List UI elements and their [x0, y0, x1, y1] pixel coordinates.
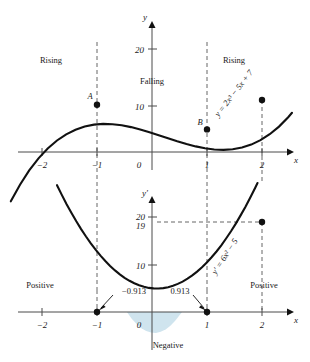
top-x-tick-label-0: 0 — [137, 160, 142, 170]
bottom-y-axis-arrowhead — [149, 196, 156, 203]
top-x-tick-label--1: −1 — [92, 160, 103, 170]
bottom-plot-group: −2 −1 0 1 2 20 19 10 y′ x — [18, 182, 298, 350]
top-x-tick-label-2: 2 — [260, 160, 265, 170]
bottom-dashed-verticals — [97, 222, 262, 312]
top-y-axis-arrowhead — [149, 21, 156, 28]
bottom-x-tick-label--1: −1 — [92, 320, 103, 330]
bottom-y-axis-label: y′ — [141, 188, 149, 198]
bottom-x-tick-label-1: 1 — [205, 320, 210, 330]
root-right-annotation-label: 0.913 — [170, 286, 189, 296]
bottom-x-tick-label--2: −2 — [37, 320, 48, 330]
top-region-label-falling: Falling — [140, 76, 165, 86]
top-plot-group: −2 −1 0 1 2 20 10 y x A B Rising — [11, 12, 298, 201]
negative-region-shading — [127, 312, 182, 333]
bottom-x2-point-marker — [259, 219, 265, 225]
bottom-x-tick-label-2: 2 — [260, 320, 265, 330]
bottom-x-axis-arrowhead — [287, 309, 294, 316]
top-plot: −2 −1 0 1 2 20 10 y x A B Rising — [0, 0, 310, 362]
math-figure: −2 −1 0 1 2 20 10 y x A B Rising — [0, 0, 310, 362]
point-x2-marker — [259, 97, 265, 103]
cubic-curve — [11, 113, 292, 202]
top-y-tick-label-10: 10 — [135, 102, 145, 112]
bottom-region-label-positive-left: Positive — [26, 280, 54, 290]
top-y-tick-label-20: 20 — [135, 45, 145, 55]
top-x-axis-arrowhead — [287, 149, 294, 156]
top-x-axis-label: x — [293, 155, 298, 165]
bottom-x-axis-label: x — [293, 315, 298, 325]
top-region-label-rising-left: Rising — [40, 55, 63, 65]
point-A-marker — [94, 102, 100, 108]
top-y-axis-label: y — [142, 12, 147, 22]
root-left-annotation-arrowhead — [98, 305, 105, 311]
point-B-label: B — [197, 117, 202, 127]
root-left-annotation-label: −0.913 — [122, 286, 146, 296]
point-B-marker — [204, 126, 210, 132]
root-right-annotation-arrow — [193, 295, 204, 308]
bottom-region-label-positive-right: Positive — [250, 280, 278, 290]
derivative-curve — [57, 183, 258, 289]
root-left-marker — [94, 309, 100, 315]
top-region-label-rising-right: Rising — [223, 55, 246, 65]
top-curve-equation-label: y = 2x³ − 5x + 7 — [212, 67, 256, 119]
top-x-tick-label-1: 1 — [205, 160, 210, 170]
bottom-x-tick-label-0: 0 — [137, 320, 142, 330]
point-A-label: A — [86, 91, 93, 101]
top-x-tick-label--2: −2 — [37, 160, 48, 170]
bottom-region-label-negative: Negative — [153, 340, 184, 350]
bottom-y-tick-label-10: 10 — [136, 261, 146, 271]
bottom-y-tick-label-19: 19 — [136, 221, 146, 231]
